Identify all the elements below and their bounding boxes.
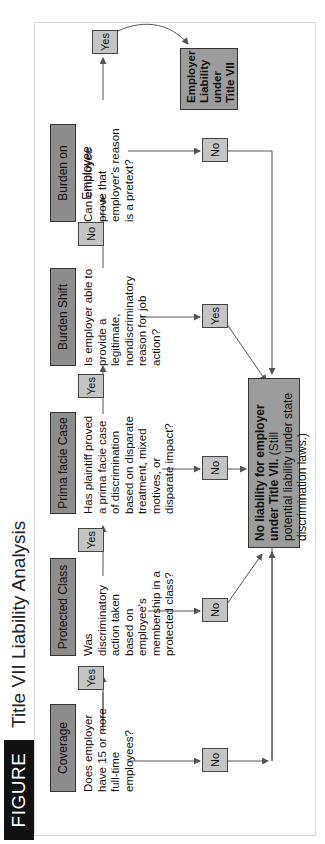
answer-no-label: No — [209, 143, 221, 157]
answer-yes-burden-on-employee: Yes — [92, 30, 118, 54]
diagram-stage: FIGURE 12.1 Title VII Liability Analysis — [0, 0, 325, 844]
answer-yes-label: Yes — [209, 307, 221, 325]
outcome-no-liability: No liability for employer under Title VI… — [248, 378, 300, 548]
question-coverage: Does employer have 15 or more full-time … — [82, 704, 136, 792]
answer-no-label: No — [209, 461, 221, 475]
outcome-employer-liability: Employer Liability under Title VII — [180, 48, 238, 110]
question-burden-on-employee: Can employee prove that employer's reaso… — [82, 126, 136, 222]
answer-yes-label: Yes — [99, 33, 111, 51]
answer-no-label: No — [85, 227, 97, 241]
outcome-no-liability-bold: No liability for employer under Title VI… — [253, 404, 281, 541]
question-protected-class: Was discriminatory action taken based on… — [82, 566, 177, 656]
answer-no-burden-shift: No — [78, 222, 104, 246]
answer-no-burden-on-employee: No — [202, 138, 228, 162]
stage-burden-shift: Burden Shift — [50, 268, 76, 366]
answer-yes-coverage: Yes — [78, 666, 104, 690]
answer-yes-burden-shift: Yes — [202, 304, 228, 328]
stage-prima-facie-case: Prima facie Case — [50, 412, 76, 514]
stage-coverage: Coverage — [50, 704, 76, 792]
answer-no-protected: No — [202, 598, 228, 622]
answer-no-label: No — [209, 603, 221, 617]
answer-yes-protected: Yes — [78, 528, 104, 552]
answer-no-coverage: No — [202, 748, 228, 772]
answer-yes-label: Yes — [85, 531, 97, 549]
stage-protected-class: Protected Class — [50, 558, 76, 656]
answer-no-prima-facie: No — [202, 456, 228, 480]
answer-yes-label: Yes — [85, 377, 97, 395]
question-burden-shift: Is employer able to provide a legitimate… — [82, 266, 163, 366]
answer-yes-label: Yes — [85, 669, 97, 687]
answer-yes-prima-facie: Yes — [78, 374, 104, 398]
stage-burden-on-employee: Burden on Employee — [50, 124, 76, 222]
answer-no-label: No — [209, 753, 221, 767]
question-prima-facie: Has plaintiff proved a prima facie case … — [82, 414, 177, 514]
